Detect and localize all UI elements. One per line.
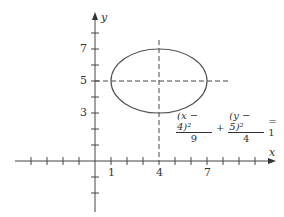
y-tick-label: 5 [80,75,87,86]
fraction-y: (y − 5)² 4 [228,110,264,144]
x-tick-label: 7 [204,167,211,178]
y-tick-label: 7 [80,43,87,54]
x-axis-label: x [269,147,275,158]
x-tick-label: 1 [108,167,115,178]
y-tick-label: 3 [80,107,87,118]
x-tick-label: 4 [156,167,163,178]
coordinate-plane [0,0,284,217]
ellipse-equation: (x − 4)² 9 + (y − 5)² 4 = 1 [176,110,284,144]
fraction-x: (x − 4)² 9 [176,110,212,144]
y-arrow-icon [92,12,98,20]
y-axis-label: y [101,12,107,23]
